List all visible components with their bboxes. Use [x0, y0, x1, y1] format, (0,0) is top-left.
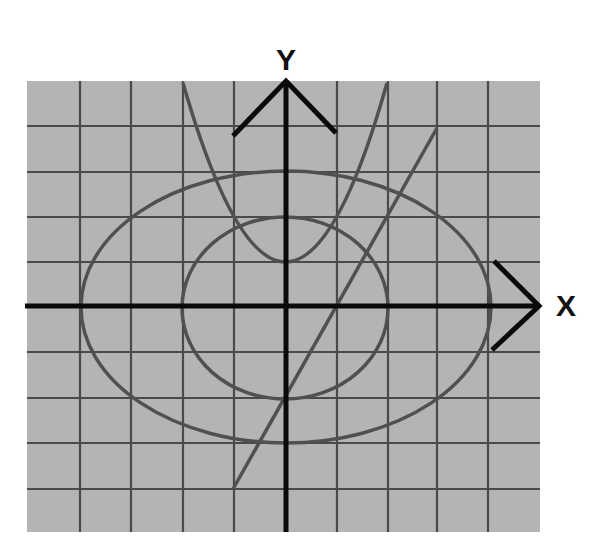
x-axis-label: X [556, 289, 576, 322]
y-axis-label: Y [276, 43, 296, 76]
coordinate-plane-diagram: Y X [0, 0, 603, 555]
